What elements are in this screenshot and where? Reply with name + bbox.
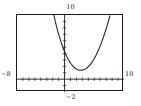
y-max-label: 10	[0, 4, 141, 11]
x-min-label: −8	[1, 71, 11, 78]
parabola-curve	[54, 15, 110, 70]
x-max-label: 10	[125, 71, 133, 78]
plot-canvas	[17, 15, 124, 92]
y-min-label: −2	[0, 94, 141, 101]
x-axis	[17, 77, 124, 81]
plot-frame	[16, 14, 123, 91]
graph-screenshot: 10 −8 10 −2	[0, 0, 141, 106]
